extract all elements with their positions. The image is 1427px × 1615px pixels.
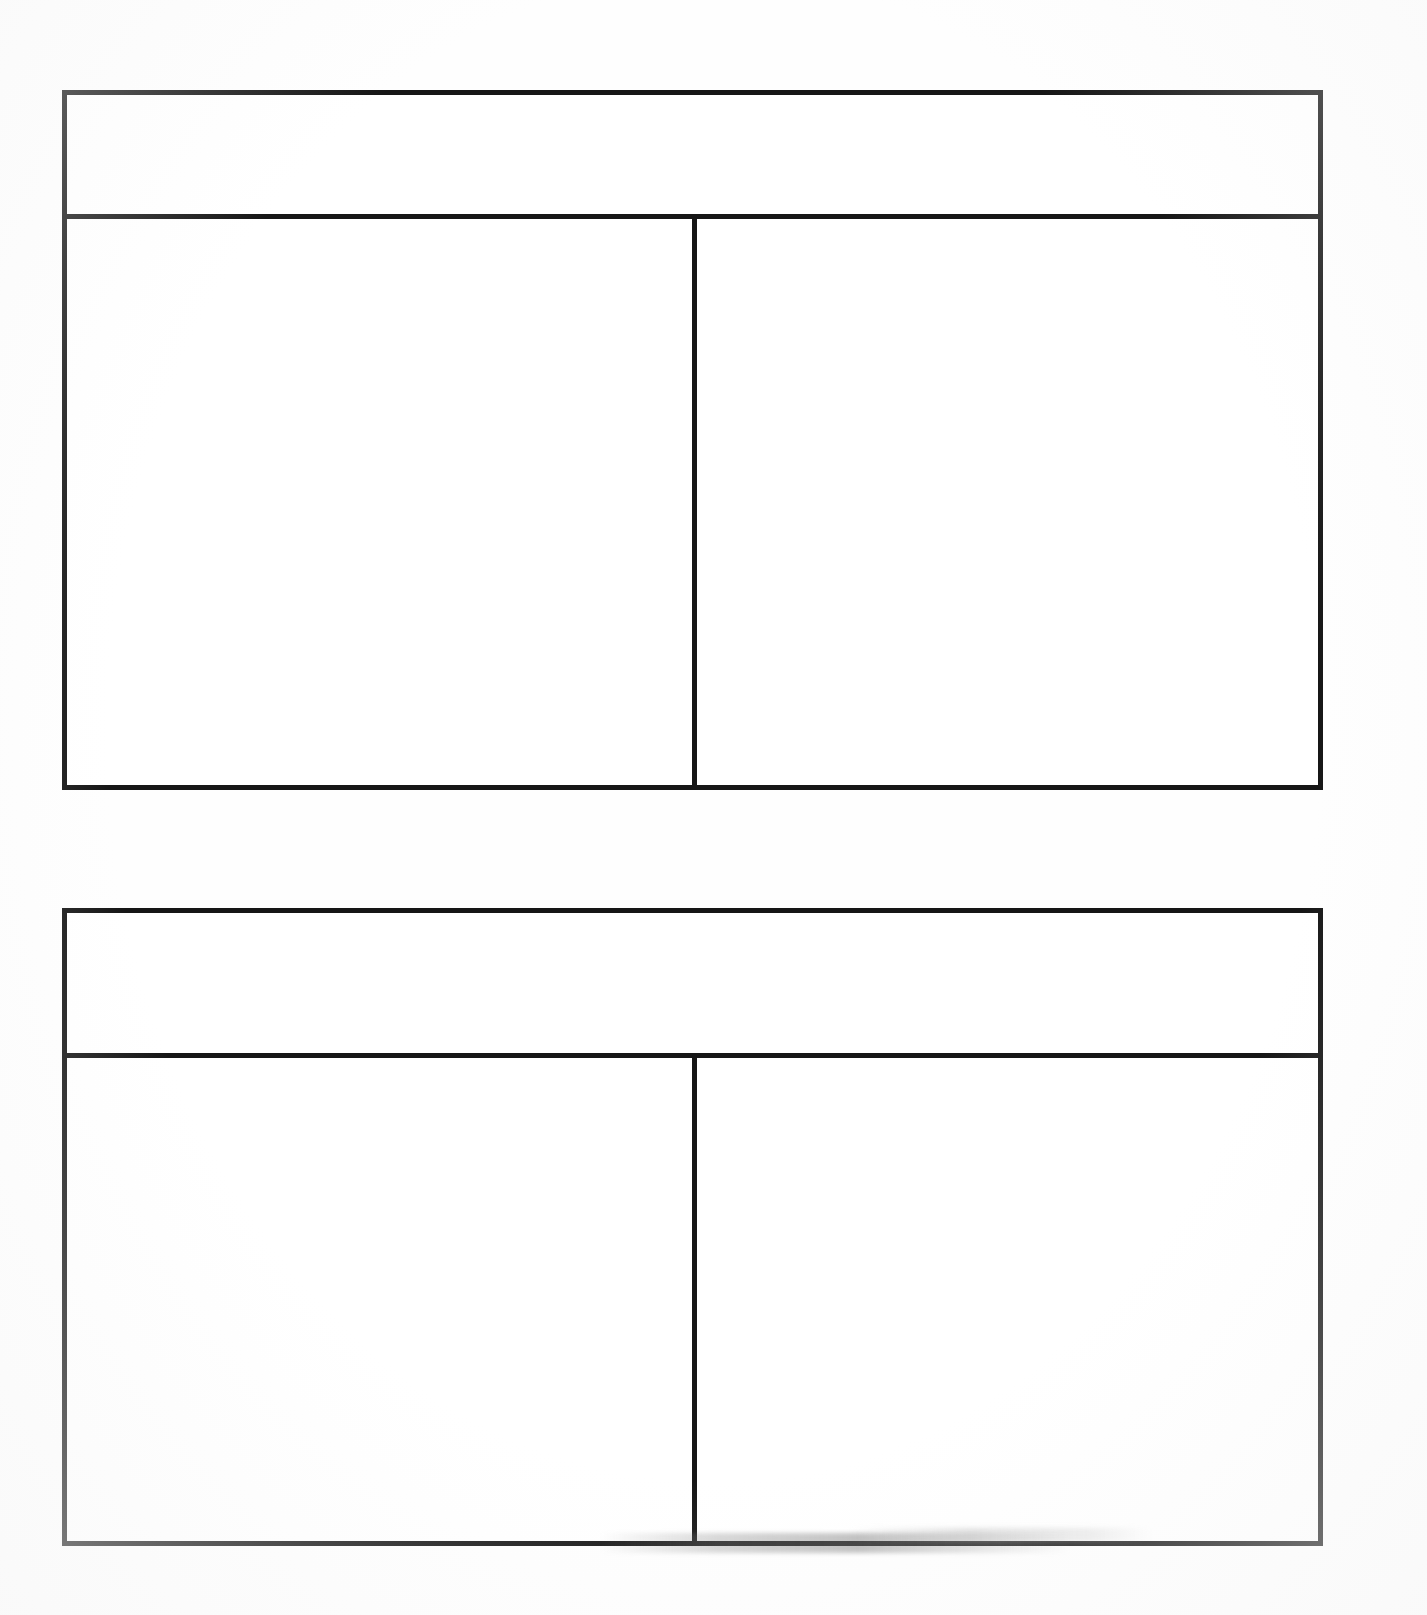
- table-2: [62, 908, 1323, 1546]
- table-1-header-row: [67, 95, 1318, 214]
- table-1-inner: [67, 95, 1318, 785]
- table-2-cell-right[interactable]: [697, 1058, 1318, 1541]
- scanned-page: [0, 0, 1427, 1615]
- table-2-body-row: [67, 1058, 1318, 1541]
- table-1-cell-left[interactable]: [67, 219, 692, 785]
- table-1-cell-right[interactable]: [697, 219, 1318, 785]
- table-1: [62, 90, 1323, 790]
- table-2-inner: [67, 913, 1318, 1541]
- table-1-body-row: [67, 219, 1318, 785]
- table-2-header-row: [67, 913, 1318, 1053]
- table-2-header-cell[interactable]: [67, 913, 1318, 1053]
- table-2-cell-left[interactable]: [67, 1058, 692, 1541]
- table-1-header-cell[interactable]: [67, 95, 1318, 214]
